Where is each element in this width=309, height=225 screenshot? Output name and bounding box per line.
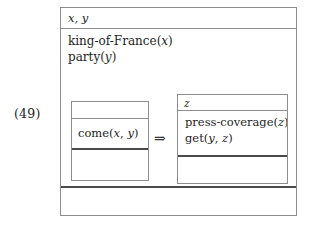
antecedent-drs-universe: [72, 102, 148, 119]
outer-drs-conditions: king-of-France(x) party(y) come(x, y) ⇒: [61, 29, 296, 188]
consequent-drs-referents: z: [184, 97, 190, 109]
antecedent-drs-conditions: come(x, y): [72, 119, 148, 150]
antecedent-drs-footer: [72, 150, 148, 180]
outer-drs-footer: [61, 188, 296, 215]
antecedent-condition-1: come(x, y): [78, 126, 138, 140]
consequent-drs-footer: [178, 157, 287, 183]
outer-drs-universe: x, y: [61, 8, 296, 29]
implication-condition: come(x, y) ⇒ z press-coverage(z) get(y, …: [61, 29, 296, 186]
consequent-drs-conditions: press-coverage(z) get(y, z): [178, 111, 287, 157]
consequent-drs-box: z press-coverage(z) get(y, z): [177, 94, 288, 184]
consequent-condition-2: get(y, z): [185, 131, 233, 145]
antecedent-drs-box: come(x, y): [71, 101, 149, 181]
consequent-drs-universe: z: [178, 95, 287, 111]
equation-number: (49): [14, 106, 40, 121]
consequent-condition-1: press-coverage(z): [185, 115, 287, 129]
implication-arrow-icon: ⇒: [154, 131, 166, 145]
outer-drs-referents: x, y: [68, 11, 88, 25]
outer-drs-box: x, y king-of-France(x) party(y) come(x, …: [60, 7, 297, 216]
